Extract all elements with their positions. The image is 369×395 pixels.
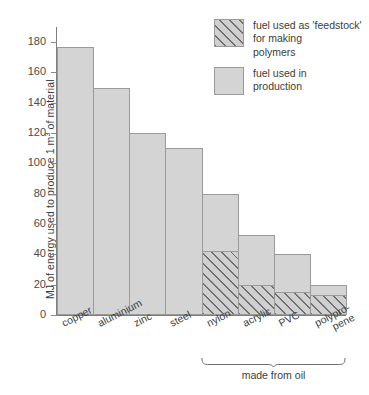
bar-aluminium bbox=[93, 88, 130, 315]
y-axis-tick-label: 20 bbox=[34, 278, 46, 290]
made-from-oil-label: made from oil bbox=[201, 369, 346, 381]
legend-entry-feedstock: fuel used as 'feedstock' for making poly… bbox=[214, 19, 369, 59]
bar-zinc bbox=[129, 133, 166, 315]
legend-entry-production: fuel used in production bbox=[214, 67, 369, 95]
y-axis-tick-label: 120 bbox=[28, 126, 46, 138]
bar-steel bbox=[165, 148, 202, 315]
legend-swatch-production-icon bbox=[214, 67, 244, 95]
y-axis-tick-label: 80 bbox=[34, 187, 46, 199]
y-axis-tick-label: 160 bbox=[28, 65, 46, 77]
y-axis-tick-label: 140 bbox=[28, 96, 46, 108]
y-axis-tick: 0 bbox=[51, 315, 57, 316]
legend-label-production: fuel used in production bbox=[253, 67, 307, 94]
legend-label-production-line2: production bbox=[253, 80, 302, 92]
legend-label-production-line1: fuel used in bbox=[253, 67, 307, 79]
legend-label-feedstock-line2: for making bbox=[253, 32, 302, 44]
y-axis-title-text-after: of material bbox=[44, 79, 56, 132]
y-axis-tick-label: 180 bbox=[28, 35, 46, 47]
legend-swatch-feedstock-icon bbox=[214, 19, 244, 47]
chart-legend: fuel used as 'feedstock' for making poly… bbox=[214, 19, 369, 103]
bar-acrylic bbox=[238, 235, 275, 315]
legend-label-feedstock-line1: fuel used as 'feedstock' bbox=[253, 19, 362, 31]
bar-nylon bbox=[202, 194, 239, 315]
y-axis-tick-label: 100 bbox=[28, 156, 46, 168]
bar-segment-feedstock-nylon bbox=[202, 251, 239, 315]
made-from-oil-brace bbox=[201, 358, 346, 367]
bar-copper bbox=[57, 47, 94, 315]
legend-label-feedstock-line3: polymers bbox=[253, 46, 296, 58]
legend-label-feedstock: fuel used as 'feedstock' for making poly… bbox=[253, 19, 362, 59]
y-axis-tick-label: 60 bbox=[34, 217, 46, 229]
energy-bar-chart: MJ of energy used to produce 1 m3 of mat… bbox=[0, 0, 369, 395]
bar-PVC bbox=[274, 254, 311, 315]
y-axis-tick-label: 0 bbox=[40, 308, 46, 320]
y-axis-title-text-before: MJ of energy used to produce 1 m bbox=[44, 137, 56, 300]
y-axis-tick-label: 40 bbox=[34, 247, 46, 259]
